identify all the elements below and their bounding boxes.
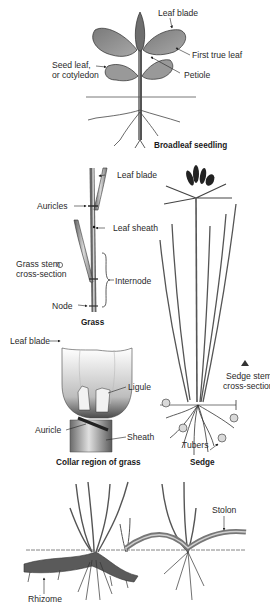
label-rhizome: Rhizome [28, 594, 62, 604]
label-sedge-stem-cross-section-line1: Sedge stem [226, 371, 270, 381]
caption-broadleaf-seedling: Broadleaf seedling [154, 141, 227, 150]
label-sedge-stem-cross-section-line2: cross-section [223, 381, 270, 391]
label-leaf-sheath: Leaf sheath [113, 223, 158, 233]
label-sheath: Sheath [127, 432, 154, 442]
broadleaf-seedling-drawing [86, 12, 196, 148]
label-leaf-blade-grass: Leaf blade [117, 170, 157, 180]
label-seed-leaf-line1: Seed leaf, [52, 60, 91, 70]
caption-grass: Grass [81, 318, 104, 327]
caption-collar-region: Collar region of grass [56, 458, 141, 467]
caption-sedge: Sedge [190, 458, 215, 467]
label-grass-stem-cross-section-line2: cross-section [16, 269, 67, 279]
grass-drawing [57, 168, 114, 312]
label-auricles: Auricles [37, 201, 68, 211]
rhizome-stolon-drawing [24, 482, 246, 600]
label-leaf-blade-broadleaf: Leaf blade [158, 8, 198, 18]
label-tubers: Tubers [182, 440, 208, 450]
collar-region-drawing [50, 341, 132, 452]
sedge-drawing [160, 165, 249, 455]
label-stolon: Stolon [212, 505, 236, 515]
label-ligule: Ligule [128, 382, 151, 392]
label-node: Node [52, 301, 73, 311]
label-petiole: Petiole [184, 70, 210, 80]
label-first-true-leaf: First true leaf [192, 50, 242, 60]
label-grass-stem-cross-section-line1: Grass stem [16, 259, 60, 269]
label-internode: Internode [115, 276, 151, 286]
label-leaf-blade-collar: Leaf blade [10, 336, 50, 346]
weed-identification-diagram [0, 0, 270, 606]
label-seed-leaf-line2: or cotyledon [52, 70, 99, 80]
label-auricle: Auricle [35, 425, 61, 435]
